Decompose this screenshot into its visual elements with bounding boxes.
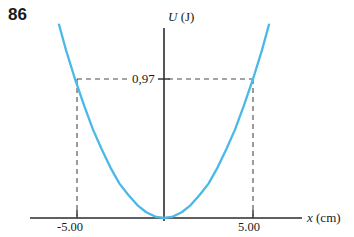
x-tick-label-left: -5.00 (57, 221, 83, 234)
x-axis-label: x (cm) (307, 211, 341, 224)
x-axis-unit: (cm) (316, 210, 341, 225)
y-axis-symbol: U (168, 9, 177, 24)
energy-value-label: 0,97 (129, 72, 158, 85)
y-axis-label: U (J) (168, 10, 194, 23)
y-axis-unit: (J) (181, 9, 195, 24)
plot-canvas (0, 0, 354, 237)
x-tick-label-right: 5.00 (238, 221, 260, 234)
potential-energy-figure: 86 U (J) x (cm) 0,97 -5.00 5.00 (0, 0, 354, 237)
